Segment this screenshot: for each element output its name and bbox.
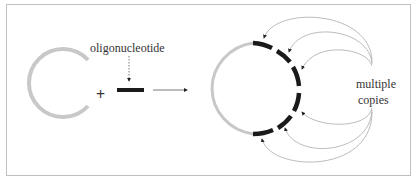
oligo-copies <box>253 43 299 134</box>
oligo-bar <box>117 88 144 92</box>
multiple-copies-label-line1: multiple <box>356 77 396 91</box>
multiple-copies-label-line2: copies <box>358 93 389 107</box>
product-plasmid-backbone <box>212 43 253 134</box>
diagram-canvas: + oligonucleotide multiple copies <box>0 0 415 180</box>
oligonucleotide-label: oligonucleotide <box>90 41 165 55</box>
open-plasmid <box>29 49 88 117</box>
plus-sign: + <box>96 86 105 103</box>
frame-border <box>7 5 411 176</box>
